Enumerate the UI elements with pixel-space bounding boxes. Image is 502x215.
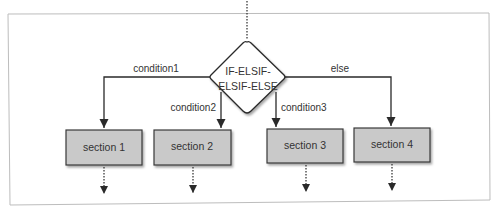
section-box-2: section 2 <box>154 130 231 165</box>
condition-label-else: else <box>331 63 350 74</box>
section-box-3: section 3 <box>267 129 343 163</box>
section-label-3: section 3 <box>284 139 326 151</box>
condition-label-3: condition3 <box>281 102 327 113</box>
flowchart-diagram: IF-ELSIF- ELSIF-ELSE condition1 conditio… <box>0 0 502 215</box>
section-box-1: section 1 <box>66 130 142 165</box>
condition-label-1: condition1 <box>133 63 179 74</box>
condition-label-2: condition2 <box>170 102 216 113</box>
section-label-2: section 2 <box>171 140 213 152</box>
decision-label-line-2: ELSIF-ELSE <box>218 80 278 92</box>
outgoing-flow-arrows <box>104 164 392 194</box>
decision-label-line-1: IF-ELSIF- <box>225 65 271 77</box>
section-box-4: section 4 <box>354 128 430 162</box>
section-label-1: section 1 <box>83 141 125 153</box>
section-label-4: section 4 <box>371 138 413 150</box>
